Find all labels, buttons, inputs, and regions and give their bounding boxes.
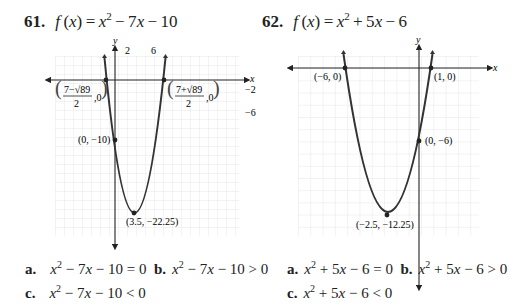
root-point (429, 66, 434, 71)
svg-text:y: y (415, 34, 421, 45)
svg-text:): ) (213, 77, 220, 100)
svg-text:(1, 0): (1, 0) (434, 71, 456, 83)
svg-text:(: ( (167, 77, 174, 100)
grid (55, 56, 239, 236)
intercept-point (113, 138, 118, 143)
problem-62-parts: a.x2 + 5x − 6 = 0 b.x2 + 5x − 6 > 0 c.x2… (287, 255, 507, 303)
svg-text:(3.5, −22.25): (3.5, −22.25) (126, 216, 178, 228)
svg-text:(0, −6): (0, −6) (425, 135, 452, 147)
problem-61-parts: a.x2 − 7x − 10 = 0 b.x2 − 7x − 10 > 0 c.… (25, 255, 268, 303)
svg-text:x: x (492, 62, 498, 73)
svg-text:(: ( (55, 77, 62, 100)
svg-text:(−2.5, −12.25): (−2.5, −12.25) (356, 219, 414, 231)
intercept-point (417, 139, 422, 144)
graph-61: y x 2 6 −2 −6 ( 7−√89 2 ,0 ) ( 7+√89 2 ,… (48, 35, 256, 247)
svg-text:(−6, 0): (−6, 0) (314, 71, 341, 83)
svg-text:−6: −6 (245, 107, 256, 118)
svg-text:x: x (249, 73, 255, 84)
vertex-point (385, 213, 390, 218)
graph-62: y x (−6, 0) (1, 0) (0, −6) (−2.5, −12.25… (290, 34, 498, 288)
svg-text:−2: −2 (245, 84, 256, 95)
root-point (343, 66, 348, 71)
svg-text:7−√89: 7−√89 (64, 84, 90, 95)
svg-text:(0, −10): (0, −10) (78, 134, 110, 146)
root-point (162, 78, 167, 83)
svg-text:y: y (112, 35, 118, 46)
svg-text:2: 2 (74, 98, 79, 109)
svg-text:): ) (101, 77, 108, 100)
vertex-point (132, 211, 137, 216)
grid (298, 56, 479, 236)
svg-text:7+√89: 7+√89 (176, 84, 202, 95)
svg-text:2: 2 (125, 45, 130, 56)
svg-text:6: 6 (151, 45, 156, 56)
svg-text:2: 2 (186, 98, 191, 109)
